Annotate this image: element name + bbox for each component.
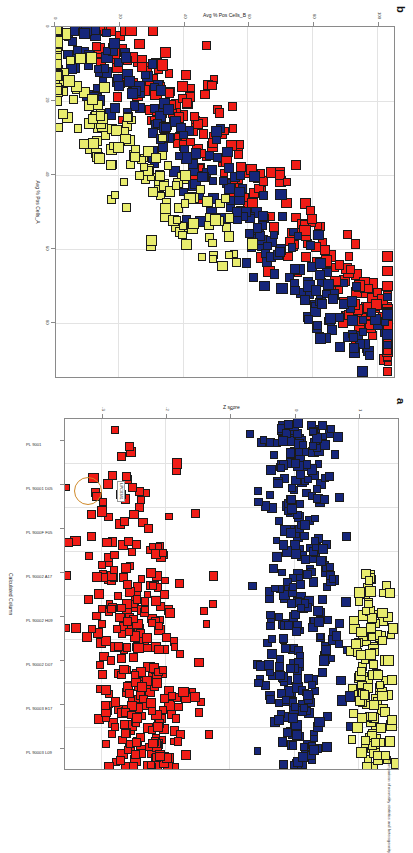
data-point: [349, 343, 359, 353]
x-axis-tick-label: PL 90002 A17: [26, 574, 52, 579]
data-point: [114, 642, 123, 651]
data-point: [143, 644, 152, 653]
data-point: [362, 607, 370, 615]
figure-caption: Comparison of normality statistics and h…: [387, 760, 392, 853]
data-point: [234, 150, 243, 159]
data-point: [382, 309, 393, 320]
data-point: [79, 139, 89, 149]
data-point: [371, 738, 380, 747]
data-point: [140, 163, 148, 171]
data-point: [316, 556, 326, 566]
data-point: [99, 498, 107, 506]
data-point: [258, 211, 268, 221]
data-point: [387, 715, 397, 725]
data-point: [383, 293, 392, 302]
data-point: [55, 26, 62, 35]
data-point: [106, 160, 116, 170]
data-point: [122, 472, 132, 482]
data-point: [160, 203, 171, 214]
data-point: [119, 665, 128, 674]
data-point: [191, 148, 201, 158]
y-axis-tick-label: 40: [183, 14, 188, 19]
x-axis-tick-label: 20: [45, 98, 50, 103]
data-point: [329, 575, 337, 583]
data-point: [202, 41, 211, 50]
data-point: [138, 575, 146, 583]
data-point: [87, 532, 96, 541]
data-point: [132, 738, 141, 747]
data-point: [86, 52, 97, 63]
data-point: [224, 163, 234, 173]
data-point: [155, 171, 165, 181]
data-point: [129, 510, 138, 519]
data-point: [175, 152, 183, 160]
data-point: [125, 26, 136, 36]
x-axis-tick: [51, 100, 55, 101]
data-point: [266, 465, 276, 475]
x-axis-tick-label: PL 9000F F05: [26, 530, 52, 535]
data-point: [387, 675, 397, 685]
data-point: [298, 752, 308, 762]
data-point: [207, 81, 216, 90]
data-point: [278, 737, 287, 746]
x-axis-tick-label: PL 90002 D07: [26, 662, 53, 667]
data-point: [70, 95, 79, 104]
data-point: [326, 563, 334, 571]
data-point: [331, 450, 340, 459]
x-axis-tick: [60, 528, 64, 529]
data-point: [327, 425, 335, 433]
data-point: [306, 206, 315, 215]
data-point: [266, 167, 277, 178]
data-point: [301, 252, 311, 262]
data-point: [391, 758, 399, 769]
data-point: [385, 736, 396, 747]
data-point: [161, 577, 169, 585]
data-point: [264, 660, 274, 670]
data-point: [125, 628, 133, 636]
data-point: [164, 161, 172, 169]
data-point: [304, 476, 312, 484]
data-point: [85, 552, 93, 560]
data-point: [79, 28, 90, 39]
data-point: [317, 633, 325, 641]
data-point: [365, 649, 376, 660]
data-point: [205, 730, 213, 738]
data-point: [352, 282, 362, 292]
data-point: [300, 704, 308, 712]
data-point: [165, 608, 175, 618]
data-point: [232, 258, 241, 267]
data-point: [107, 656, 115, 664]
y-axis-tick: [295, 414, 296, 418]
gridline: [230, 419, 231, 769]
y-axis-tick-label: -1: [230, 407, 235, 411]
data-point: [376, 681, 384, 689]
data-point: [147, 761, 155, 769]
data-point: [303, 570, 312, 579]
panel-a-annotation-label: LPC0341: [117, 481, 125, 502]
data-point: [365, 586, 375, 596]
data-point: [146, 568, 156, 578]
data-point: [155, 543, 163, 551]
data-point: [176, 650, 184, 658]
data-point: [290, 264, 300, 274]
data-point: [148, 59, 157, 68]
y-axis-tick: [313, 22, 314, 26]
data-point: [110, 566, 118, 574]
gridline: [65, 507, 398, 508]
data-point: [96, 111, 106, 121]
data-point: [247, 238, 258, 249]
data-point: [242, 258, 251, 267]
data-point: [114, 592, 123, 601]
data-point: [288, 243, 297, 252]
x-axis-tick: [51, 248, 55, 249]
data-point: [174, 737, 182, 745]
data-point: [75, 53, 86, 64]
data-point: [114, 81, 124, 91]
data-point: [178, 687, 188, 697]
x-axis-tick: [60, 616, 64, 617]
data-point: [287, 599, 296, 608]
data-point: [137, 682, 147, 692]
y-axis-tick: [184, 22, 185, 26]
data-point: [209, 255, 217, 263]
data-point: [275, 517, 283, 525]
